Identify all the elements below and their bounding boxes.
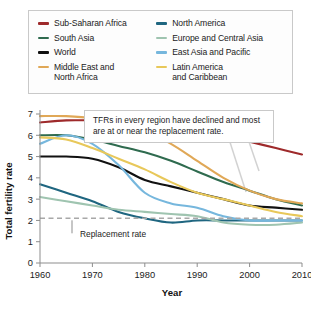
- y-axis-tick-label: 3: [28, 195, 33, 205]
- legend-item-east-asia-and-pacific[interactable]: East Asia and Pacific: [156, 47, 284, 57]
- legend-swatch-icon: [156, 51, 167, 54]
- legend-item-europe-and-central-asia[interactable]: Europe and Central Asia: [156, 33, 284, 43]
- y-axis-tick-label: 4: [28, 173, 33, 183]
- chart-figure: Sub-Saharan Africa South Asia World Midd…: [0, 0, 311, 313]
- x-axis-tick-label: 1960: [30, 270, 51, 280]
- legend-item-label: South Asia: [54, 33, 94, 43]
- legend-item-sub-saharan-africa[interactable]: Sub-Saharan Africa: [38, 18, 156, 28]
- y-axis-tick-label: 1: [28, 237, 33, 247]
- replacement-rate-label: Replacement rate: [80, 229, 146, 239]
- chart-legend: Sub-Saharan Africa South Asia World Midd…: [28, 10, 293, 94]
- x-axis-tick-label: 1980: [134, 270, 155, 280]
- legend-item-latin-america-and-caribbean[interactable]: Latin America and Caribbean: [156, 62, 284, 82]
- legend-swatch-icon: [38, 22, 49, 25]
- annotation-callout: TFRs in every region have declined and m…: [84, 110, 274, 143]
- legend-item-label: Sub-Saharan Africa: [54, 18, 127, 28]
- legend-item-label: Middle East and North Africa: [54, 62, 114, 82]
- x-axis-tick-label: 1990: [187, 270, 208, 280]
- x-axis-tick-label: 2000: [239, 270, 260, 280]
- legend-item-label: World: [54, 47, 76, 57]
- legend-item-south-asia[interactable]: South Asia: [38, 33, 156, 43]
- x-axis-tick-label: 1970: [82, 270, 103, 280]
- legend-item-label: Europe and Central Asia: [172, 33, 263, 43]
- legend-swatch-icon: [38, 37, 49, 40]
- legend-swatch-icon: [38, 51, 49, 54]
- legend-item-north-america[interactable]: North America: [156, 18, 284, 28]
- x-axis-title: Year: [162, 287, 183, 298]
- legend-item-world[interactable]: World: [38, 47, 156, 57]
- y-axis-title: Total fertility rate: [3, 162, 14, 239]
- y-axis-tick-label: 5: [28, 152, 33, 162]
- x-axis-tick-label: 2010: [292, 270, 311, 280]
- y-axis-tick-label: 7: [28, 109, 33, 119]
- legend-item-label: North America: [172, 18, 225, 28]
- legend-column-left: Sub-Saharan Africa South Asia World Midd…: [38, 18, 156, 86]
- y-axis-tick-label: 6: [28, 131, 33, 141]
- legend-swatch-icon: [156, 37, 167, 40]
- legend-item-label: Latin America and Caribbean: [172, 62, 227, 82]
- y-axis-tick-label: 0: [28, 258, 33, 268]
- legend-swatch-icon: [38, 66, 49, 69]
- y-axis-tick-label: 2: [28, 216, 33, 226]
- legend-swatch-icon: [156, 66, 167, 69]
- legend-item-label: East Asia and Pacific: [172, 47, 250, 57]
- legend-column-right: North America Europe and Central Asia Ea…: [156, 18, 284, 86]
- legend-item-middle-east-and-north-africa[interactable]: Middle East and North Africa: [38, 62, 156, 82]
- annotation-text: TFRs in every region have declined and m…: [93, 115, 266, 137]
- legend-swatch-icon: [156, 22, 167, 25]
